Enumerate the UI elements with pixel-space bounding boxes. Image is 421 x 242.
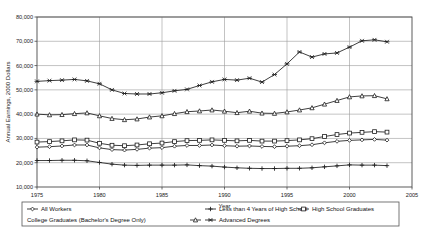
data-point [148,142,152,146]
data-point [60,144,64,148]
data-point [385,40,390,44]
legend-label: Less than 4 Years of High School [219,206,307,212]
x-tick-label: 1995 [281,192,293,198]
data-point [197,163,201,167]
data-point [310,166,314,170]
data-point [348,131,352,135]
data-point [272,73,277,77]
data-point [60,139,64,143]
data-point [110,143,114,147]
data-point [285,139,289,143]
y-axis-title: Annual Earnings, 2000 Dollars [5,61,11,142]
data-point [197,84,202,88]
data-point [85,143,89,147]
x-tick-label: 1985 [156,192,168,198]
data-point [48,140,52,144]
chart-root: 10,00020,00030,00040,00050,00060,00070,0… [0,0,421,242]
data-point [85,138,89,142]
legend-item-2[interactable]: Less than 4 Years of High School [205,206,307,212]
data-point [147,163,151,167]
data-point [310,55,315,59]
data-point [322,165,326,169]
data-point [160,141,164,145]
x-tick-label: 1990 [218,192,230,198]
data-point [160,163,164,167]
data-point [348,138,352,142]
data-point [285,166,289,170]
data-point [173,140,177,144]
data-point [360,39,365,43]
data-point [223,144,227,148]
data-point [385,138,389,142]
data-point [135,143,139,147]
data-point [135,163,139,167]
data-point [222,165,226,169]
data-point [123,144,127,148]
data-point [373,130,377,134]
data-point [47,79,52,83]
data-point [73,143,77,147]
data-point [35,145,39,149]
x-tick-label: 1975 [31,192,43,198]
x-tick-label: 2000 [343,192,355,198]
legend-item-4[interactable]: College Graduates (Bachelor's Degree Onl… [27,217,201,223]
x-tick-label: 2005 [406,192,418,198]
data-point [347,163,351,167]
data-point [123,148,127,152]
data-point [247,109,251,113]
data-point [285,110,289,114]
data-point [310,143,314,147]
data-point [60,158,64,162]
data-point [210,108,214,112]
series-layer [35,38,390,171]
data-point [160,146,164,150]
data-point [335,133,339,137]
data-point [72,111,76,115]
data-point [210,164,214,168]
data-point [235,78,240,82]
legend-item-3[interactable]: High School Graduates [298,206,374,212]
data-point [110,148,114,152]
data-point [248,144,252,148]
chart-legend: All WorkersLess than 4 Years of High Sch… [22,202,399,226]
legend-item-1[interactable]: All Workers [27,206,72,212]
data-point [185,144,189,148]
legend-label: High School Graduates [312,206,374,212]
data-point [385,163,389,167]
data-point [185,163,189,167]
data-point [360,94,364,98]
y-tick-label: 50,000 [16,87,33,93]
data-point [135,92,140,96]
legend-label: Advanced Degrees [219,217,270,223]
legend-item-5[interactable]: Advanced Degrees [205,217,270,223]
data-point [210,80,215,84]
data-point [335,164,339,168]
data-point [260,145,264,149]
data-point [47,113,51,117]
data-point [122,118,126,122]
data-point [147,92,152,96]
data-point [223,138,227,142]
data-point [372,163,376,167]
series-2 [35,158,389,171]
data-point [172,163,176,167]
data-point [373,138,377,142]
legend-marker-square-icon [302,207,306,211]
data-point [385,97,389,101]
data-point [122,163,126,167]
y-tick-label: 10,000 [16,184,33,190]
y-tick-label: 30,000 [16,135,33,141]
data-point [172,111,176,115]
data-point [48,145,52,149]
data-point [148,146,152,150]
data-point [198,138,202,142]
data-point [98,141,102,145]
data-point [272,166,276,170]
data-point [260,80,265,84]
data-point [310,137,314,141]
data-point [298,144,302,148]
data-point [372,93,376,97]
series-line [37,40,387,94]
data-point [110,116,114,120]
data-point [273,145,277,149]
